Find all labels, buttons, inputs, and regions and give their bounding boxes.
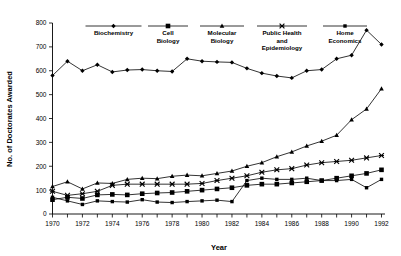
- legend-label: Cell: [162, 29, 174, 36]
- data-point-marker: [125, 193, 130, 198]
- chart-figure: BiochemistryCellBiologyMolecularBiologyP…: [0, 0, 401, 256]
- data-point-marker: [200, 188, 205, 193]
- data-point-marker: [379, 86, 384, 90]
- data-point-marker: [80, 196, 85, 201]
- data-point-marker: [275, 178, 278, 181]
- data-point-marker: [140, 191, 145, 196]
- data-point-marker: [320, 179, 323, 182]
- data-point-marker: [230, 200, 233, 203]
- doctorates-awarded-line-chart: BiochemistryCellBiologyMolecularBiologyP…: [0, 0, 401, 256]
- data-point-marker: [334, 159, 339, 164]
- legend-item-cell-biology: CellBiology: [148, 24, 188, 44]
- y-axis-title: No. of Doctorates Awarded: [5, 71, 14, 167]
- data-point-marker: [155, 200, 158, 203]
- y-tick-label: 0: [43, 210, 47, 217]
- data-point-marker: [349, 53, 353, 57]
- chart-legend: BiochemistryCellBiologyMolecularBiologyP…: [86, 24, 368, 52]
- chart-axes: [53, 23, 386, 214]
- data-point-marker: [305, 176, 308, 179]
- data-point-marker: [185, 200, 188, 203]
- legend-item-biochemistry: Biochemistry: [86, 24, 142, 36]
- x-tick-label: 1974: [105, 220, 120, 227]
- x-tick-label: 1970: [45, 220, 60, 227]
- x-tick-label: 1980: [195, 220, 210, 227]
- data-point-marker: [200, 59, 204, 63]
- data-point-marker: [289, 166, 294, 171]
- data-point-marker: [80, 191, 85, 196]
- data-point-marker: [215, 178, 220, 183]
- legend-label: Biology: [157, 37, 180, 44]
- data-point-marker: [304, 163, 309, 168]
- y-tick-label: 600: [36, 67, 47, 74]
- data-point-marker: [155, 69, 159, 73]
- data-point-marker: [319, 160, 324, 165]
- legend-marker-icon: [166, 24, 171, 29]
- data-point-marker: [260, 182, 265, 187]
- data-point-marker: [275, 74, 279, 78]
- y-tick-label: 400: [36, 115, 47, 122]
- data-point-marker: [125, 182, 130, 187]
- data-point-marker: [289, 181, 294, 186]
- data-point-marker: [290, 76, 294, 80]
- data-point-marker: [259, 170, 264, 175]
- legend-label: Epidemiology: [262, 44, 303, 51]
- data-point-marker: [110, 70, 114, 74]
- chart-series-group: [50, 28, 384, 206]
- data-point-marker: [200, 199, 203, 202]
- data-point-marker: [245, 183, 250, 188]
- data-point-marker: [379, 168, 384, 173]
- data-point-marker: [274, 167, 279, 172]
- legend-marker-icon: [343, 24, 346, 27]
- legend-marker-icon: [280, 24, 285, 29]
- x-axis-ticks: 1970197219741976197819801982198419861988…: [45, 214, 389, 227]
- data-point-marker: [230, 185, 235, 190]
- data-point-marker: [260, 176, 263, 179]
- data-point-marker: [349, 117, 354, 121]
- x-tick-label: 1988: [314, 220, 329, 227]
- data-point-marker: [379, 153, 384, 158]
- data-point-marker: [185, 182, 190, 187]
- data-point-marker: [350, 178, 353, 181]
- data-point-marker: [51, 196, 54, 199]
- legend-item-molecular-biology: MolecularBiology: [200, 24, 244, 44]
- data-point-marker: [140, 176, 145, 180]
- data-point-marker: [185, 173, 190, 177]
- y-tick-label: 200: [36, 163, 47, 170]
- x-tick-label: 1982: [225, 220, 240, 227]
- data-point-marker: [364, 155, 369, 160]
- data-point-marker: [215, 198, 218, 201]
- data-point-marker: [245, 66, 249, 70]
- data-point-marker: [126, 200, 129, 203]
- data-point-marker: [349, 174, 354, 179]
- data-point-marker: [245, 179, 248, 182]
- y-tick-label: 500: [36, 91, 47, 98]
- series-molecular-biology: [50, 86, 384, 191]
- y-tick-label: 700: [36, 43, 47, 50]
- data-point-marker: [364, 171, 369, 176]
- data-point-marker: [80, 69, 84, 73]
- data-point-marker: [111, 200, 114, 203]
- data-point-marker: [125, 68, 129, 72]
- legend-item-public-health-and-epidemiology: Public HealthandEpidemiology: [257, 24, 307, 51]
- data-point-marker: [245, 173, 250, 178]
- data-point-marker: [170, 201, 173, 204]
- data-point-marker: [349, 158, 354, 163]
- data-point-marker: [304, 179, 309, 184]
- data-point-marker: [96, 199, 99, 202]
- data-point-marker: [230, 176, 235, 181]
- data-point-marker: [140, 67, 144, 71]
- data-point-marker: [380, 178, 383, 181]
- data-point-marker: [365, 186, 368, 189]
- data-point-marker: [290, 178, 293, 181]
- x-tick-label: 1976: [135, 220, 150, 227]
- y-tick-label: 800: [36, 19, 47, 26]
- legend-marker-icon: [111, 24, 115, 28]
- data-point-marker: [65, 179, 70, 183]
- legend-label: Biochemistry: [94, 29, 134, 36]
- y-tick-label: 100: [36, 187, 47, 194]
- data-point-marker: [200, 181, 205, 186]
- data-point-marker: [230, 60, 234, 64]
- data-point-marker: [95, 63, 99, 67]
- x-tick-label: 1990: [344, 220, 359, 227]
- data-point-marker: [305, 69, 309, 73]
